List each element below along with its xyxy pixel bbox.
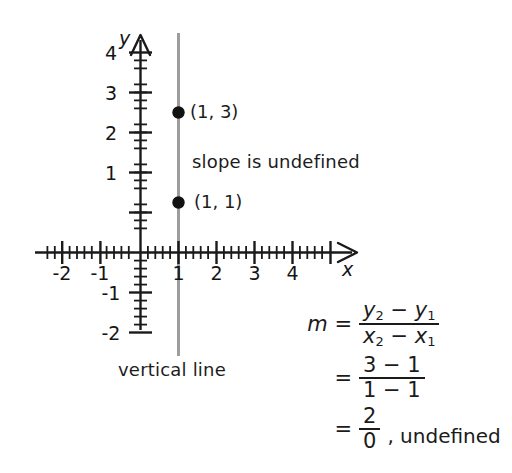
y-axis [131, 35, 150, 330]
den-x1-base: x [415, 324, 427, 348]
y-tick-label-4: 4 [100, 42, 122, 64]
variable-m: m [307, 312, 327, 336]
slope-calculation: m = y2 − y1 x2 − x1 = 3 − 1 [296, 296, 510, 454]
fraction-denominator-result: 0 [359, 430, 380, 453]
fraction-numerator-result: 2 [359, 405, 380, 430]
y-tick-label-2: 2 [100, 122, 122, 144]
y-tick-label-1: 1 [100, 162, 122, 184]
equals-sign-2: = [334, 366, 352, 390]
fraction-numerator-general: y2 − y1 [359, 299, 439, 325]
y-tick-label--2: -2 [96, 322, 126, 344]
fraction-general: y2 − y1 x2 − x1 [359, 299, 439, 349]
equals-sign-3: = [334, 417, 352, 441]
math-row-result: = 2 0 , undefined [296, 404, 510, 454]
fraction-denominator-general: x2 − x1 [359, 325, 439, 349]
fraction-denominator-substituted: 1 − 1 [359, 379, 425, 402]
slope-undefined-note: slope is undefined [192, 151, 360, 172]
x-tick-label-4: 4 [280, 262, 305, 284]
result-undefined-text: , undefined [387, 424, 500, 454]
y-tick-label-3: 3 [100, 82, 122, 104]
num-y1-base: y [415, 298, 427, 322]
num-y2-sub: 2 [375, 308, 383, 323]
fraction-result: 2 0 [359, 405, 380, 453]
den-minus: − [390, 324, 408, 348]
y-tick-label--1: -1 [96, 282, 126, 304]
x-tick-label-1: 1 [166, 262, 191, 284]
den-x1-sub: 1 [427, 334, 435, 349]
num-minus: − [390, 298, 408, 322]
x-axis [35, 243, 357, 262]
den-x2-base: x [363, 324, 375, 348]
point-label-1-3: (1, 3) [190, 101, 238, 122]
x-tick-label-2: 2 [204, 262, 229, 284]
fraction-numerator-substituted: 3 − 1 [359, 354, 425, 379]
vertical-line-note: vertical line [118, 359, 226, 380]
num-y2-base: y [363, 298, 375, 322]
x-tick-label--1: -1 [85, 262, 115, 284]
data-point-1-3 [172, 106, 184, 118]
math-lead-m: m = [296, 312, 352, 336]
equals-sign-1: = [334, 312, 352, 336]
num-y1-sub: 1 [427, 308, 435, 323]
x-tick-label-3: 3 [242, 262, 267, 284]
fraction-substituted: 3 − 1 1 − 1 [359, 354, 425, 402]
figure-canvas: y x -2 -1 1 2 3 4 4 3 2 1 -1 -2 (1, 3) (… [0, 0, 512, 473]
equals-sign-2-wrap: = [296, 366, 352, 390]
point-label-1-1: (1, 1) [194, 191, 242, 212]
x-tick-label--2: -2 [47, 262, 77, 284]
equals-sign-3-wrap: = [296, 417, 352, 441]
data-point-1-1 [172, 196, 184, 208]
math-row-substituted: = 3 − 1 1 − 1 [296, 352, 510, 404]
math-row-formula: m = y2 − y1 x2 − x1 [296, 296, 510, 352]
x-axis-label: x [342, 258, 353, 280]
den-x2-sub: 2 [375, 334, 383, 349]
